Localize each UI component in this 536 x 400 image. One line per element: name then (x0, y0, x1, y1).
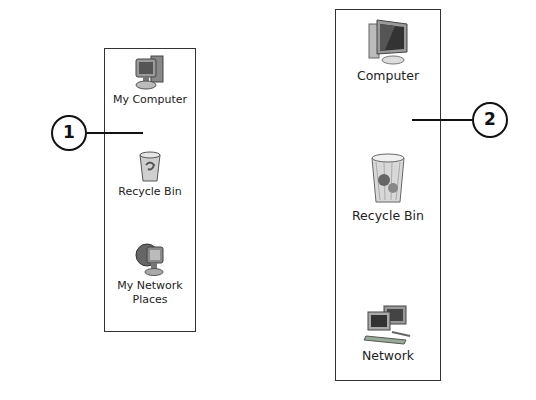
desktop-icon-computer[interactable]: Computer (336, 16, 440, 83)
vista-icon-panel: Computer Recycle Bin Network (335, 9, 441, 381)
desktop-icon-label: Computer (336, 68, 440, 83)
desktop-icon-my-computer[interactable]: My Computer (105, 53, 195, 107)
desktop-icon-label: My Computer (105, 93, 195, 107)
desktop-icon-recycle-bin[interactable]: Recycle Bin (336, 150, 440, 223)
desktop-icon-label: My Network (105, 279, 195, 293)
recycle-bin-icon (135, 149, 165, 185)
network-icon (362, 300, 414, 348)
desktop-icon-recycle-bin[interactable]: Recycle Bin (105, 149, 195, 199)
desktop-icon-label: Recycle Bin (105, 185, 195, 199)
desktop-icon-network[interactable]: Network (336, 300, 440, 363)
desktop-icon-my-network-places[interactable]: My Network Places (105, 241, 195, 307)
computer-icon (365, 16, 411, 68)
callout-leader-line-2 (412, 119, 472, 121)
callout-leader-line-1 (87, 132, 143, 134)
callout-badge-1: 1 (51, 115, 87, 151)
callout-badge-2: 2 (472, 102, 508, 138)
desktop-icon-label: Places (105, 293, 195, 307)
desktop-icon-label: Recycle Bin (336, 208, 440, 223)
desktop-icon-label: Network (336, 348, 440, 363)
xp-icon-panel: My Computer Recycle Bin My Network Place… (104, 48, 196, 332)
computer-icon (133, 53, 167, 93)
recycle-bin-icon (366, 150, 410, 208)
network-places-icon (133, 241, 167, 279)
